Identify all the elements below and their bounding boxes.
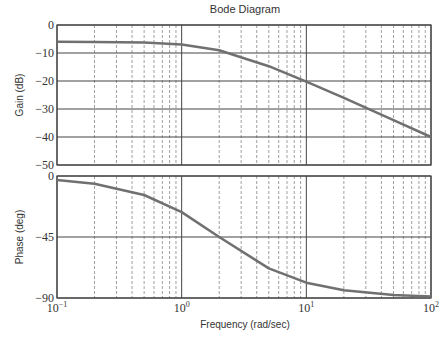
y-tick-label: 0 xyxy=(48,169,54,183)
curve-gain xyxy=(57,42,431,137)
phase-plot: 0−45−9010−1100101102 xyxy=(35,169,439,315)
curve-phase xyxy=(57,180,431,297)
chart-title: Bode Diagram xyxy=(210,3,280,15)
y-tick-label: 0 xyxy=(48,18,54,32)
x-tick-label: 100 xyxy=(174,300,190,315)
plot-frame xyxy=(57,25,431,165)
y-tick-label: −45 xyxy=(35,230,54,244)
y-tick-label: −20 xyxy=(35,74,54,88)
gain-axis-label: Gain (dB) xyxy=(14,74,25,117)
x-tick-label: 102 xyxy=(423,300,439,315)
x-tick-label: 10−1 xyxy=(47,300,68,315)
y-tick-label: −10 xyxy=(35,46,54,60)
y-tick-label: −30 xyxy=(35,102,54,116)
x-tick-label: 101 xyxy=(298,300,314,315)
bode-diagram: Bode Diagram 0−10−20−30−40−50 0−45−9010−… xyxy=(0,0,448,338)
gain-plot: 0−10−20−30−40−50 xyxy=(35,18,431,172)
y-tick-label: −40 xyxy=(35,130,54,144)
x-axis-label: Frequency (rad/sec) xyxy=(200,319,289,330)
phase-axis-label: Phase (deg) xyxy=(14,210,25,264)
